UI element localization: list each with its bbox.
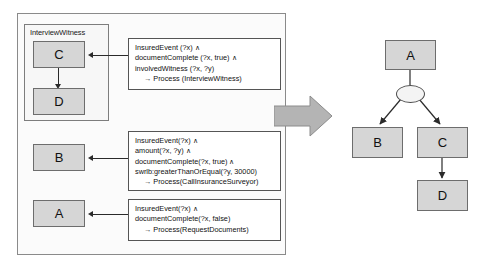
tree-node-label-b: B: [373, 135, 382, 150]
tree-node-c[interactable]: C: [417, 127, 468, 158]
tree-node-b[interactable]: B: [352, 127, 403, 158]
tree-node-label-a: A: [406, 48, 415, 63]
tree-node-label-d: D: [438, 188, 447, 203]
tree-node-label-c: C: [438, 135, 447, 150]
tree-gateway[interactable]: [396, 85, 425, 103]
diagram-canvas: InterviewWitness C D B A InsuredEvent (?…: [0, 0, 481, 272]
tree-node-a[interactable]: A: [385, 40, 436, 70]
tree-node-d[interactable]: D: [417, 180, 468, 211]
